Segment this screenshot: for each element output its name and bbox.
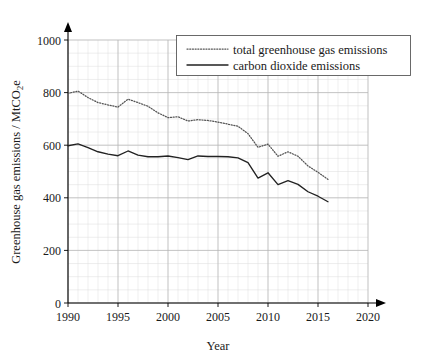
legend-label-carbon-dioxide-emissions: carbon dioxide emissions: [233, 59, 360, 73]
y-tick-label-200: 200: [43, 244, 61, 258]
y-tick-label-0: 0: [55, 297, 61, 311]
emissions-line-chart: 1990199520002005201020152020 02004006008…: [0, 0, 426, 359]
chart-canvas: 1990199520002005201020152020 02004006008…: [0, 0, 426, 359]
x-tick-label-2020: 2020: [356, 310, 380, 324]
legend-label-total-greenhouse-gas-emissions: total greenhouse gas emissions: [233, 43, 388, 57]
y-tick-label-1000: 1000: [37, 34, 61, 48]
y-tick-labels: 02004006008001000: [37, 34, 61, 311]
y-axis-title-tail: e: [9, 80, 23, 86]
y-tick-label-400: 400: [43, 191, 61, 205]
y-tick-label-800: 800: [43, 86, 61, 100]
x-axis-arrowhead: [376, 299, 386, 307]
y-tick-label-600: 600: [43, 139, 61, 153]
y-axis-title-main: Greenhouse gas emissions / MtCO: [9, 90, 23, 264]
x-tick-label-2010: 2010: [256, 310, 280, 324]
axis-ticks: [64, 40, 368, 307]
y-axis-title: Greenhouse gas emissions / MtCO2e: [9, 80, 25, 264]
x-tick-labels: 1990199520002005201020152020: [56, 310, 380, 324]
x-tick-label-2015: 2015: [306, 310, 330, 324]
x-tick-label-1990: 1990: [56, 310, 80, 324]
x-tick-label-2000: 2000: [156, 310, 180, 324]
x-tick-label-2005: 2005: [206, 310, 230, 324]
x-tick-label-1995: 1995: [106, 310, 130, 324]
chart-legend: total greenhouse gas emissions carbon di…: [177, 36, 411, 76]
y-axis-arrowhead: [64, 22, 72, 32]
x-axis-title: Year: [206, 339, 230, 353]
